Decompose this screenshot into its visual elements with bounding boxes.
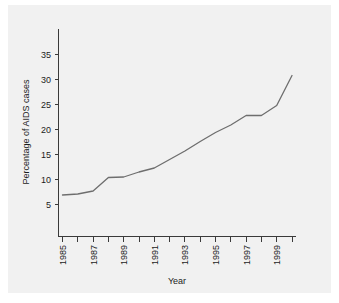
y-tick-label-5: 5 bbox=[46, 200, 51, 210]
y-axis-ticks bbox=[55, 55, 59, 205]
x-tick-label-1999: 1999 bbox=[272, 245, 282, 265]
x-tick-label-1993: 1993 bbox=[180, 245, 190, 265]
line-chart-plot: 5 10 15 20 25 30 35 bbox=[0, 0, 339, 303]
y-axis-title: Percentage of AIDS cases bbox=[21, 79, 31, 185]
x-tick-label-1987: 1987 bbox=[89, 245, 99, 265]
x-axis-ticks bbox=[63, 237, 293, 242]
aids-percentage-series bbox=[63, 76, 293, 196]
chart-figure: 5 10 15 20 25 30 35 bbox=[0, 0, 339, 303]
y-tick-label-15: 15 bbox=[41, 150, 51, 160]
x-tick-label-1997: 1997 bbox=[242, 245, 252, 265]
y-tick-label-10: 10 bbox=[41, 175, 51, 185]
y-tick-label-35: 35 bbox=[41, 50, 51, 60]
x-tick-label-1985: 1985 bbox=[58, 245, 68, 265]
x-tick-label-1995: 1995 bbox=[211, 245, 221, 265]
x-axis-title: Year bbox=[168, 276, 186, 286]
y-tick-label-20: 20 bbox=[41, 125, 51, 135]
x-axis-tick-labels: 1985 1987 1989 1991 1993 1995 1997 1999 bbox=[58, 245, 282, 265]
x-tick-label-1991: 1991 bbox=[150, 245, 160, 265]
y-tick-label-30: 30 bbox=[41, 75, 51, 85]
y-tick-label-25: 25 bbox=[41, 100, 51, 110]
y-axis-tick-labels: 5 10 15 20 25 30 35 bbox=[41, 50, 51, 210]
x-tick-label-1989: 1989 bbox=[119, 245, 129, 265]
